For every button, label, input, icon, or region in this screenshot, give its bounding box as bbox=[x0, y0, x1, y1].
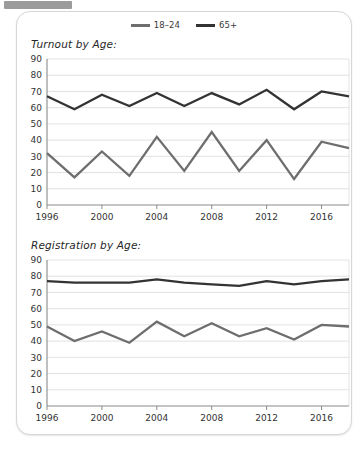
xtick-label-registration-2000: 2000 bbox=[90, 413, 113, 423]
xtick-label-registration-1996: 1996 bbox=[36, 413, 59, 423]
truncated-toolbar-bar bbox=[4, 1, 72, 9]
xtick-label-turnout-2004: 2004 bbox=[145, 212, 168, 222]
legend-label-65-plus: 65+ bbox=[219, 21, 237, 30]
ytick-label-registration-60: 60 bbox=[31, 304, 43, 314]
ytick-label-turnout-0: 0 bbox=[36, 200, 42, 210]
ytick-label-turnout-50: 50 bbox=[31, 119, 43, 129]
ytick-label-registration-50: 50 bbox=[31, 320, 43, 330]
series-line-turnout-65- bbox=[47, 90, 349, 109]
ytick-label-turnout-60: 60 bbox=[31, 103, 43, 113]
xtick-label-registration-2016: 2016 bbox=[310, 413, 333, 423]
plot-area-registration: 0102030405060708090199620002004200820122… bbox=[17, 254, 353, 434]
ytick-label-registration-80: 80 bbox=[31, 271, 43, 281]
ytick-label-registration-10: 10 bbox=[31, 385, 43, 395]
legend-label-18-24: 18–24 bbox=[154, 21, 180, 30]
ytick-label-registration-30: 30 bbox=[31, 353, 43, 363]
ytick-label-turnout-40: 40 bbox=[31, 135, 43, 145]
line-chart-turnout: 0102030405060708090199620002004200820122… bbox=[17, 53, 353, 233]
ytick-label-turnout-30: 30 bbox=[31, 152, 43, 162]
chart-title-turnout: Turnout by Age: bbox=[31, 38, 117, 50]
xtick-label-turnout-2016: 2016 bbox=[310, 212, 333, 222]
line-swatch-icon bbox=[196, 24, 215, 27]
xtick-label-registration-2008: 2008 bbox=[200, 413, 223, 423]
chart-card: 18–24 65+ Turnout by Age: 01020304050607… bbox=[16, 11, 352, 435]
ytick-label-registration-70: 70 bbox=[31, 288, 43, 298]
chart-title-registration: Registration by Age: bbox=[31, 239, 141, 251]
ytick-label-turnout-90: 90 bbox=[31, 54, 43, 64]
ytick-label-turnout-80: 80 bbox=[31, 70, 43, 80]
legend-item-18-24: 18–24 bbox=[131, 21, 180, 30]
plot-area-turnout: 0102030405060708090199620002004200820122… bbox=[17, 53, 353, 233]
series-line-turnout-18-24 bbox=[47, 132, 349, 179]
ytick-label-turnout-20: 20 bbox=[31, 168, 43, 178]
panel-registration: Registration by Age: 0102030405060708090… bbox=[17, 239, 353, 435]
xtick-label-turnout-2000: 2000 bbox=[90, 212, 113, 222]
panel-turnout: Turnout by Age: 010203040506070809019962… bbox=[17, 38, 353, 234]
ytick-label-registration-0: 0 bbox=[36, 401, 42, 411]
ytick-label-turnout-10: 10 bbox=[31, 184, 43, 194]
xtick-label-turnout-1996: 1996 bbox=[36, 212, 59, 222]
legend-item-65-plus: 65+ bbox=[196, 21, 237, 30]
ytick-label-registration-40: 40 bbox=[31, 336, 43, 346]
ytick-label-registration-20: 20 bbox=[31, 369, 43, 379]
series-line-registration-65- bbox=[47, 279, 349, 285]
xtick-label-registration-2012: 2012 bbox=[255, 413, 278, 423]
xtick-label-registration-2004: 2004 bbox=[145, 413, 168, 423]
chart-legend: 18–24 65+ bbox=[17, 21, 351, 30]
line-chart-registration: 0102030405060708090199620002004200820122… bbox=[17, 254, 353, 434]
ytick-label-turnout-70: 70 bbox=[31, 87, 43, 97]
xtick-label-turnout-2008: 2008 bbox=[200, 212, 223, 222]
ytick-label-registration-90: 90 bbox=[31, 255, 43, 265]
line-swatch-icon bbox=[131, 24, 150, 27]
xtick-label-turnout-2012: 2012 bbox=[255, 212, 278, 222]
